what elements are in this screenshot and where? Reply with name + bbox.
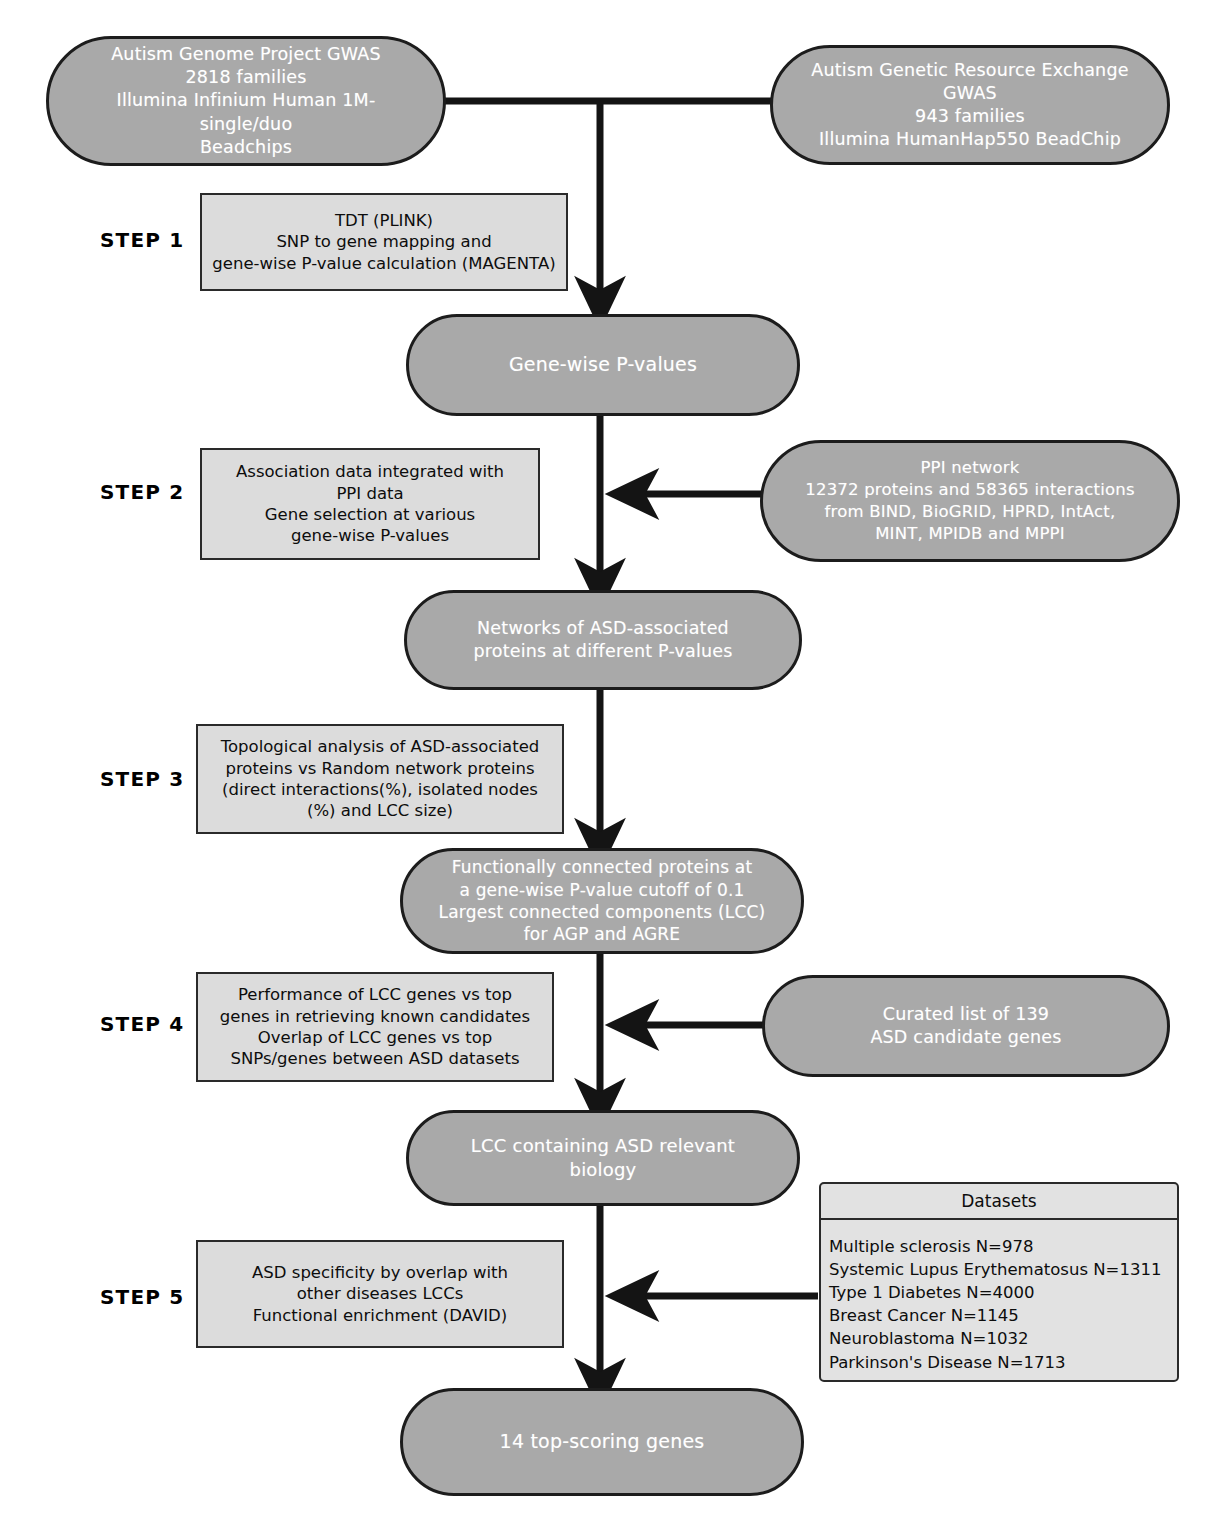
step4-line-3: Overlap of LCC genes vs top <box>220 1027 530 1048</box>
process-box-step5: ASD specificity by overlap with other di… <box>196 1240 564 1348</box>
dataset-row: Systemic Lupus Erythematosus N=1311 <box>829 1259 1177 1281</box>
networks-line-1: Networks of ASD-associated <box>473 617 732 640</box>
step1-line-3: gene-wise P-value calculation (MAGENTA) <box>212 253 555 274</box>
node-agp-gwas: Autism Genome Project GWAS 2818 families… <box>46 36 446 166</box>
functional-line-1: Functionally connected proteins at <box>439 856 766 878</box>
step4-line-1: Performance of LCC genes vs top <box>220 984 530 1005</box>
genewise-line-1: Gene-wise P-values <box>509 352 697 377</box>
process-box-step1: TDT (PLINK) SNP to gene mapping and gene… <box>200 193 568 291</box>
functional-line-4: for AGP and AGRE <box>439 923 766 945</box>
lcc-biology-line-1: LCC containing ASD relevant biology <box>435 1134 771 1182</box>
ppi-line-3: from BIND, BioGRID, HPRD, IntAct, <box>805 501 1134 523</box>
step5-line-3: Functional enrichment (DAVID) <box>252 1305 508 1326</box>
dataset-row: Breast Cancer N=1145 <box>829 1305 1177 1327</box>
ppi-line-4: MINT, MPIDB and MPPI <box>805 523 1134 545</box>
agp-line-3: Illumina Infinium Human 1M-single/duo <box>75 89 417 135</box>
agre-line-2: GWAS <box>811 82 1128 105</box>
step5-line-2: other diseases LCCs <box>252 1283 508 1304</box>
step-label-3: STEP 3 <box>100 767 184 791</box>
node-networks-asd-associated: Networks of ASD-associated proteins at d… <box>404 590 802 690</box>
step3-line-2: proteins vs Random network proteins <box>221 758 540 779</box>
curated-line-2: ASD candidate genes <box>870 1026 1061 1049</box>
networks-line-2: proteins at different P-values <box>473 640 732 663</box>
agp-line-2: 2818 families <box>75 66 417 89</box>
step3-line-1: Topological analysis of ASD-associated <box>221 736 540 757</box>
step2-line-1: Association data integrated with <box>236 461 504 482</box>
node-gene-wise-pvalues: Gene-wise P-values <box>406 314 800 416</box>
node-ppi-network: PPI network 12372 proteins and 58365 int… <box>760 440 1180 562</box>
step-label-4: STEP 4 <box>100 1012 184 1036</box>
step2-line-3: Gene selection at various <box>236 504 504 525</box>
ppi-line-1: PPI network <box>805 457 1134 479</box>
dataset-row: Parkinson's Disease N=1713 <box>829 1352 1177 1374</box>
node-curated-candidate-genes: Curated list of 139 ASD candidate genes <box>762 975 1170 1077</box>
step3-line-3: (direct interactions(%), isolated nodes <box>221 779 540 800</box>
agp-line-4: Beadchips <box>75 136 417 159</box>
step4-line-4: SNPs/genes between ASD datasets <box>220 1048 530 1069</box>
step4-line-2: genes in retrieving known candidates <box>220 1006 530 1027</box>
step-label-2: STEP 2 <box>100 480 184 504</box>
functional-line-2: a gene-wise P-value cutoff of 0.1 <box>439 879 766 901</box>
dataset-row: Neuroblastoma N=1032 <box>829 1328 1177 1350</box>
agp-line-1: Autism Genome Project GWAS <box>75 43 417 66</box>
process-box-step4: Performance of LCC genes vs top genes in… <box>196 972 554 1082</box>
functional-line-3: Largest connected components (LCC) <box>439 901 766 923</box>
dataset-row: Multiple sclerosis N=978 <box>829 1236 1177 1258</box>
datasets-panel: Datasets Multiple sclerosis N=978 System… <box>819 1182 1179 1382</box>
process-box-step2: Association data integrated with PPI dat… <box>200 448 540 560</box>
step1-line-1: TDT (PLINK) <box>212 210 555 231</box>
top-genes-line-1: 14 top-scoring genes <box>500 1429 705 1454</box>
node-agre-gwas: Autism Genetic Resource Exchange GWAS 94… <box>770 45 1170 165</box>
step-label-5: STEP 5 <box>100 1285 184 1309</box>
dataset-row: Type 1 Diabetes N=4000 <box>829 1282 1177 1304</box>
agre-line-1: Autism Genetic Resource Exchange <box>811 59 1128 82</box>
step3-line-4: (%) and LCC size) <box>221 800 540 821</box>
datasets-panel-title: Datasets <box>821 1184 1177 1220</box>
node-functionally-connected-proteins: Functionally connected proteins at a gen… <box>400 848 804 954</box>
flowchart-canvas: Autism Genome Project GWAS 2818 families… <box>0 0 1209 1527</box>
curated-line-1: Curated list of 139 <box>870 1003 1061 1026</box>
ppi-line-2: 12372 proteins and 58365 interactions <box>805 479 1134 501</box>
step2-line-4: gene-wise P-values <box>236 525 504 546</box>
agre-line-4: Illumina HumanHap550 BeadChip <box>811 128 1128 151</box>
step5-line-1: ASD specificity by overlap with <box>252 1262 508 1283</box>
agre-line-3: 943 families <box>811 105 1128 128</box>
step2-line-2: PPI data <box>236 483 504 504</box>
step-label-1: STEP 1 <box>100 228 184 252</box>
process-box-step3: Topological analysis of ASD-associated p… <box>196 724 564 834</box>
node-top-scoring-genes: 14 top-scoring genes <box>400 1388 804 1496</box>
step1-line-2: SNP to gene mapping and <box>212 231 555 252</box>
datasets-panel-body: Multiple sclerosis N=978 Systemic Lupus … <box>821 1220 1177 1380</box>
node-lcc-asd-biology: LCC containing ASD relevant biology <box>406 1110 800 1206</box>
